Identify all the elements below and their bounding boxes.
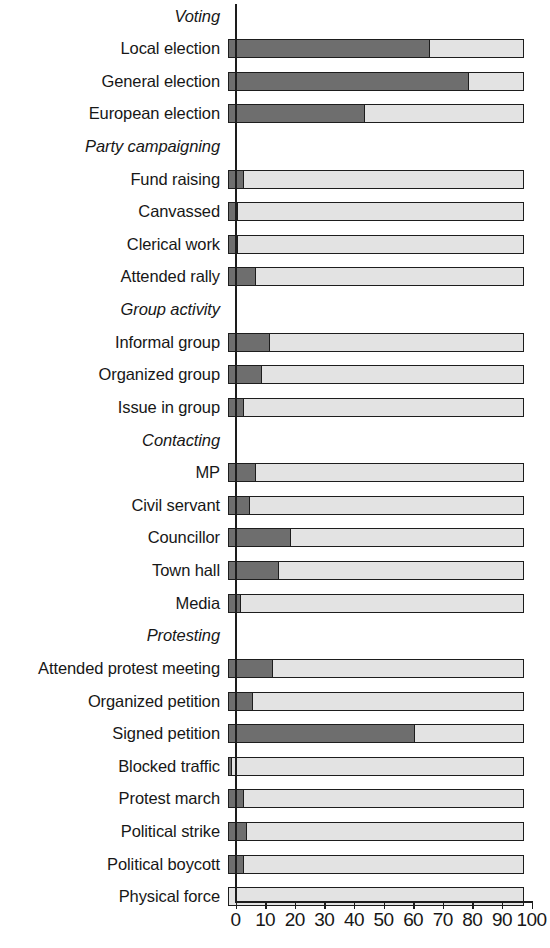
chart-bar-label: Media: [0, 594, 228, 613]
chart-bar-label: Signed petition: [0, 724, 228, 743]
chart-bar-fill: [229, 105, 365, 122]
chart-bar: [228, 757, 524, 776]
chart-bar-label: Local election: [0, 39, 228, 58]
chart-bar: [228, 887, 524, 906]
chart-bar-fill: [229, 856, 244, 873]
chart-bar: [228, 267, 524, 286]
chart-bar-row: Attended rally: [0, 264, 550, 290]
chart-bar-label: Canvassed: [0, 202, 228, 221]
x-tick-label: 60: [396, 909, 430, 931]
chart-bar-row: MP: [0, 460, 550, 486]
chart-bar-label: Attended protest meeting: [0, 659, 228, 678]
chart-bar: [228, 333, 524, 352]
chart-bar-label: General election: [0, 72, 228, 91]
chart-bar-row: European election: [0, 101, 550, 127]
chart-bar: [228, 822, 524, 841]
chart-bar-fill: [229, 693, 253, 710]
chart-bar-track: [228, 267, 524, 286]
chart-bar-fill: [229, 595, 241, 612]
chart-bar: [228, 72, 524, 91]
chart-bar-track: [228, 659, 524, 678]
chart-bar-track: [228, 692, 524, 711]
chart-bar: [228, 365, 524, 384]
chart-bar-fill: [229, 497, 250, 514]
chart-bar-fill: [229, 790, 244, 807]
chart-bar: [228, 170, 524, 189]
chart-bar-track: [228, 202, 524, 221]
chart-bar-track: [228, 594, 524, 613]
chart-bar-row: General election: [0, 68, 550, 94]
x-tick-label: 50: [367, 909, 401, 931]
chart-bar-label: Protest march: [0, 789, 228, 808]
chart-bar-fill: [229, 660, 273, 677]
chart-bar-fill: [229, 399, 244, 416]
chart-bar-row: Organized group: [0, 362, 550, 388]
chart-bar-label: Attended rally: [0, 267, 228, 286]
chart-bar-row: Informal group: [0, 329, 550, 355]
chart-bar-fill: [229, 171, 244, 188]
chart-bar-row: Canvassed: [0, 199, 550, 225]
x-tick-label: 80: [455, 909, 489, 931]
chart-bar-label: Town hall: [0, 561, 228, 580]
chart-bar: [228, 724, 524, 743]
chart-bar-label: Issue in group: [0, 398, 228, 417]
x-tick-label: 100: [515, 909, 549, 931]
chart-bar-label: European election: [0, 104, 228, 123]
chart-bar-track: [228, 333, 524, 352]
chart-bar-row: Blocked traffic: [0, 753, 550, 779]
chart-bar-fill: [229, 529, 291, 546]
x-tick-label: 0: [219, 909, 253, 931]
chart-bar: [228, 104, 524, 123]
chart-bar-fill: [229, 203, 238, 220]
chart-bar: [228, 235, 524, 254]
chart-group-label: Group activity: [0, 300, 228, 319]
chart-bar-track: [228, 398, 524, 417]
chart-bar-track: [228, 496, 524, 515]
x-tick-label: 10: [248, 909, 282, 931]
chart-bar-fill: [229, 562, 279, 579]
chart-bar-track: [228, 887, 524, 906]
chart-bar-track: [228, 72, 524, 91]
chart-bar: [228, 789, 524, 808]
chart-bar-label: Organized group: [0, 365, 228, 384]
x-tick-label: 90: [485, 909, 519, 931]
chart-bar-track: [228, 561, 524, 580]
x-tick-label: 40: [337, 909, 371, 931]
chart-bar-track: [228, 39, 524, 58]
chart-bar: [228, 202, 524, 221]
chart-group-heading: Voting: [0, 3, 550, 29]
chart-bar-track: [228, 235, 524, 254]
chart-bar: [228, 594, 524, 613]
chart-group-label: Protesting: [0, 626, 228, 645]
chart-bar: [228, 659, 524, 678]
chart-bar: [228, 855, 524, 874]
chart-bar-label: Civil servant: [0, 496, 228, 515]
chart-bar-track: [228, 365, 524, 384]
x-tick-label: 30: [307, 909, 341, 931]
chart-bar-row: Fund raising: [0, 166, 550, 192]
chart-bar: [228, 463, 524, 482]
chart-bar-track: [228, 170, 524, 189]
chart-bar-label: Physical force: [0, 887, 228, 906]
chart-bar: [228, 398, 524, 417]
chart-bar-fill: [229, 73, 469, 90]
chart-bar-track: [228, 757, 524, 776]
chart-bar-track: [228, 789, 524, 808]
chart-group-label: Party campaigning: [0, 137, 228, 156]
chart-group-heading: Party campaigning: [0, 133, 550, 159]
chart-bar-row: Political strike: [0, 819, 550, 845]
chart-bar-fill: [229, 823, 247, 840]
chart-bar: [228, 496, 524, 515]
chart-bar-row: Signed petition: [0, 721, 550, 747]
chart-bar-track: [228, 822, 524, 841]
chart-bar-label: Organized petition: [0, 692, 228, 711]
chart-group-heading: Group activity: [0, 297, 550, 323]
chart-bar-track: [228, 104, 524, 123]
chart-bar-label: Blocked traffic: [0, 757, 228, 776]
chart-bar-row: Clerical work: [0, 231, 550, 257]
chart-bar-row: Local election: [0, 36, 550, 62]
chart-bar-label: Political boycott: [0, 855, 228, 874]
chart-bar-fill: [229, 268, 256, 285]
chart-rows: VotingLocal electionGeneral electionEuro…: [0, 0, 550, 900]
chart-bar-label: Fund raising: [0, 170, 228, 189]
